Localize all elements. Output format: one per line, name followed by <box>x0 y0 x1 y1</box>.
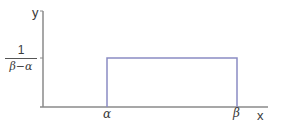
density-value-label: 1 β−α <box>5 44 37 73</box>
uniform-density-curve <box>107 58 237 107</box>
y-axis-label: y <box>32 5 39 20</box>
fraction-numerator: 1 <box>5 44 37 56</box>
x-tick-alpha: α <box>103 107 111 121</box>
fraction-bar <box>5 58 37 59</box>
x-axis-label: x <box>257 108 264 123</box>
x-tick-beta: β <box>233 106 240 120</box>
fraction-denominator: β−α <box>5 61 37 73</box>
chart-canvas <box>0 0 283 124</box>
